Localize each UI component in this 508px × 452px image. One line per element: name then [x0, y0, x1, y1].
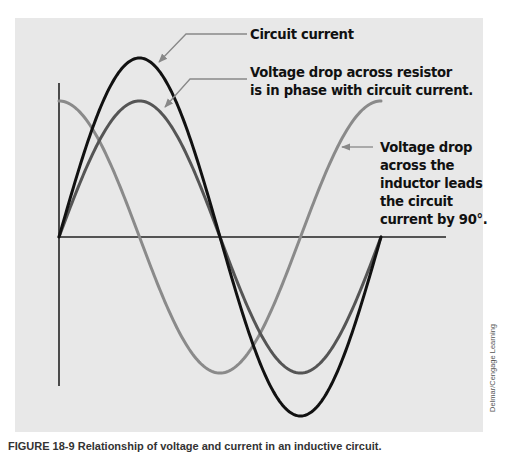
inductor-voltage-label-line5: current by 90°. [380, 212, 488, 227]
inductor-voltage-label-line3: inductor leads [380, 176, 483, 191]
circuit-current-leader-arrow [159, 34, 247, 62]
circuit-current-label: Circuit current [250, 27, 354, 42]
figure-caption: FIGURE 18-9 Relationship of voltage and … [8, 440, 381, 452]
image-credit: Delmar/Cengage Learning [488, 324, 497, 412]
inductor-voltage-label-line1: Voltage drop [380, 140, 472, 155]
resistor-voltage-label-line1: Voltage drop across resistor [250, 65, 453, 80]
inductor-voltage-label-line2: across the [380, 158, 455, 173]
inductor-voltage-label-line4: the circuit [380, 194, 453, 209]
resistor-voltage-label-line2: is in phase with circuit current. [250, 83, 473, 98]
